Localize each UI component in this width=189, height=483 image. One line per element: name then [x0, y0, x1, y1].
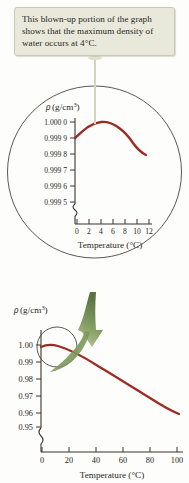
inset-x-tick-label: 8 — [123, 227, 127, 236]
figure-container: This blown-up portion of the graph shows… — [0, 0, 189, 483]
callout-stalk — [94, 58, 96, 124]
callout-text: This blown-up portion of the graph shows… — [22, 13, 168, 50]
inset-y-tick-label: 0.999 9 — [44, 134, 67, 143]
callout-box: This blown-up portion of the graph shows… — [14, 7, 175, 56]
inset-x-tick-label: 12 — [145, 227, 153, 236]
inset-x-tick-label: 0 — [75, 227, 79, 236]
inset-y-tick-label: 0.999 5 — [44, 198, 67, 207]
inset-x-tick-label: 4 — [99, 227, 103, 236]
inset-y-axis-break — [73, 204, 77, 216]
inset-x-ticks — [77, 219, 149, 224]
inset-y-ticks — [70, 122, 75, 202]
inset-y-tick-label: 0.999 6 — [44, 182, 67, 191]
inset-y-axis-title: ρ(g/cm3) — [45, 101, 80, 112]
inset-x-tick-label: 10 — [133, 227, 141, 236]
inset-x-tick-label: 6 — [111, 227, 115, 236]
inset-density-curve — [75, 122, 146, 155]
inset-y-tick-label: 1.000 0 — [44, 118, 67, 127]
inset-y-tick-label: 0.999 8 — [44, 150, 67, 159]
callout-stalk-cap — [88, 56, 102, 60]
inset-x-tick-label: 2 — [87, 227, 91, 236]
inset-y-tick-label: 0.999 7 — [44, 166, 67, 175]
inset-x-axis-title: Temperature (°C) — [78, 240, 143, 250]
